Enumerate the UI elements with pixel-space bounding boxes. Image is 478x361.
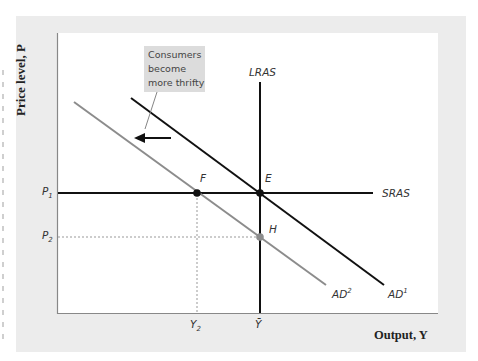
point-h-marker: [256, 233, 264, 241]
ad1-label: AD1: [388, 287, 408, 300]
point-e-marker: [256, 189, 264, 197]
ybar-tick-label: Ȳ: [255, 318, 261, 330]
thrifty-callout: Consumers become more thrifty: [144, 46, 205, 92]
callout-line-3: more thrifty: [148, 76, 201, 90]
callout-line-2: become: [148, 62, 201, 76]
sras-label: SRAS: [382, 187, 410, 199]
point-e-label: E: [265, 172, 272, 184]
plot-area: [57, 33, 438, 314]
point-f-marker: [193, 189, 201, 197]
x-axis-label: Output, Y: [374, 328, 428, 343]
p2-tick-label: P2: [42, 229, 53, 244]
point-h-label: H: [269, 223, 277, 235]
y-axis-label: Price level, P: [13, 56, 31, 116]
p1-tick-label: P1: [42, 185, 53, 200]
lras-label: LRAS: [249, 66, 276, 78]
point-f-label: F: [200, 172, 206, 184]
ad2-label: AD2: [332, 287, 352, 300]
ad-as-diagram: [0, 0, 478, 361]
y2-tick-label: Y2: [190, 318, 201, 333]
callout-line-1: Consumers: [148, 48, 201, 62]
